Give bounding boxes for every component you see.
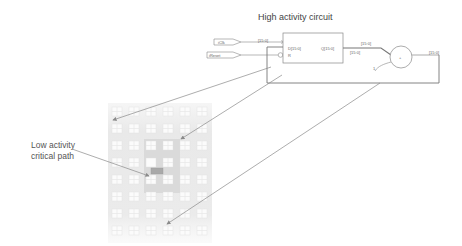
ireset-label: iReset [209,53,220,58]
arrow-critical-path [72,149,149,176]
iclk-label: iClk [218,40,225,45]
q-bus-bottom-label: [15:0] [350,50,360,55]
q-bus-top-label: [15:0] [361,41,371,46]
register-d-pin: D[15:0] [288,46,301,51]
adder-symbol: + [399,55,401,60]
arrow-to-grid-3 [167,83,380,224]
arrow-to-grid-2 [181,75,282,139]
register-r-pin: R [288,53,291,58]
clk-bus-label: [15:0] [258,38,268,43]
register-q-pin: Q[15:0] [321,46,334,51]
adder-out-label: [15:0] [429,50,439,55]
adder-const-input: 1 [373,66,375,71]
arrow-to-grid-1 [113,67,271,120]
circuit-schematic [0,0,462,246]
